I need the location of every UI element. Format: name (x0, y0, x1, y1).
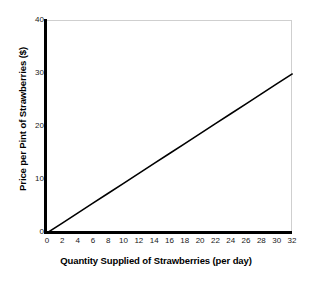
x-axis-spine (44, 231, 292, 234)
x-axis-tick-labels: 02468101214161820222426283032 (0, 236, 312, 248)
supply-curve-chart: Price per Pint of Strawberries ($) 01020… (0, 0, 312, 282)
y-tick-label: 0 (28, 228, 44, 236)
y-tick-label: 30 (28, 69, 44, 77)
y-tick-label: 40 (28, 16, 44, 24)
x-axis-title: Quantity Supplied of Strawberries (per d… (0, 255, 312, 266)
plot-area (47, 20, 292, 232)
supply-line-series (47, 21, 292, 233)
x-tick-label: 32 (282, 236, 302, 246)
y-axis-spine (44, 19, 47, 234)
y-tick-label: 10 (28, 175, 44, 183)
y-tick-label: 20 (28, 122, 44, 130)
supply-line-path (47, 74, 292, 233)
